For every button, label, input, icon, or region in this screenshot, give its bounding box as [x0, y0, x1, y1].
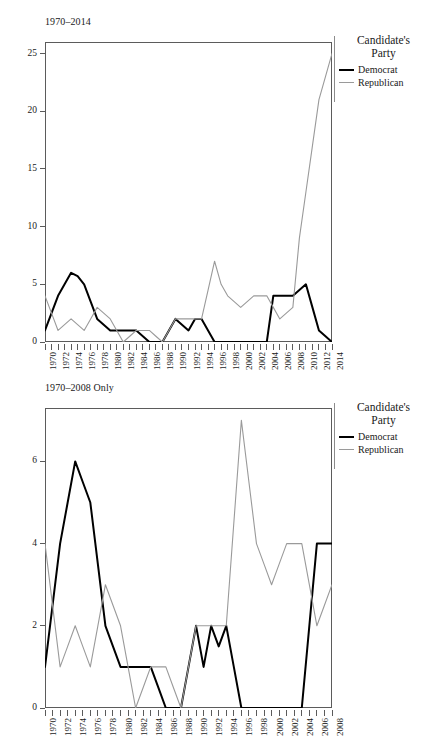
legend-label-democrat: Democrat: [358, 431, 397, 443]
x-tick-mark: [45, 344, 46, 350]
x-tick-label: 1998: [232, 352, 241, 370]
x-tick-label: 2006: [284, 352, 293, 370]
x-tick-label: 2012: [323, 352, 332, 370]
y-tick-mark: [40, 543, 45, 544]
legend-bottom: Candidate's Party Democrat Republican: [336, 401, 429, 456]
x-tick-label: 1980: [114, 352, 123, 370]
x-tick-mark: [165, 710, 166, 716]
x-tick-mark: [325, 344, 326, 350]
x-tick-mark: [77, 344, 78, 350]
x-tick-mark: [318, 344, 319, 350]
x-tick-label: 1984: [155, 718, 164, 736]
x-tick-mark: [120, 710, 121, 716]
y-axis-top: 0510152025: [0, 42, 45, 342]
x-tick-label: 2008: [297, 352, 306, 370]
y-tick-label: 10: [28, 220, 38, 233]
x-tick-mark: [279, 710, 280, 716]
line-chart-top: [45, 42, 332, 342]
y-tick-mark: [40, 53, 45, 54]
x-tick-label: 1996: [219, 352, 228, 370]
legend-title-line1: Candidate's: [357, 401, 410, 413]
line-swatch-icon: [339, 436, 354, 438]
x-tick-mark: [226, 710, 227, 716]
y-tick-label: 25: [28, 47, 38, 60]
x-tick-mark: [45, 710, 46, 716]
y-tick-label: 0: [32, 335, 37, 348]
x-tick-mark: [286, 710, 287, 716]
x-tick-mark: [155, 344, 156, 350]
x-tick-mark: [214, 344, 215, 350]
x-tick-mark: [264, 710, 265, 716]
x-tick-label: 1986: [153, 352, 162, 370]
x-tick-mark: [305, 344, 306, 350]
y-tick-mark: [40, 111, 45, 112]
series-line-republican: [45, 54, 332, 342]
x-tick-mark: [221, 344, 222, 350]
x-tick-label: 1982: [127, 352, 136, 370]
x-tick-mark: [84, 344, 85, 350]
y-tick-label: 20: [28, 104, 38, 117]
x-tick-mark: [64, 344, 65, 350]
x-tick-mark: [97, 344, 98, 350]
x-tick-mark: [332, 710, 333, 716]
x-tick-label: 1974: [79, 718, 88, 736]
x-tick-label: 2002: [291, 718, 300, 736]
x-tick-label: 1978: [101, 352, 110, 370]
line-swatch-icon: [339, 82, 354, 83]
x-tick-mark: [123, 344, 124, 350]
x-tick-mark: [201, 344, 202, 350]
x-tick-label: 1990: [200, 718, 209, 736]
x-tick-mark: [332, 344, 333, 350]
x-tick-label: 1986: [170, 718, 179, 736]
x-tick-label: 1974: [75, 352, 84, 370]
x-tick-mark: [112, 710, 113, 716]
x-tick-label: 1992: [193, 352, 202, 370]
legend-title: Candidate's Party: [336, 34, 429, 61]
x-tick-mark: [162, 344, 163, 350]
x-tick-label: 1988: [185, 718, 194, 736]
x-tick-mark: [90, 344, 91, 350]
x-tick-label: 1970: [49, 718, 58, 736]
series-line-democrat: [45, 273, 332, 342]
y-tick-mark: [40, 284, 45, 285]
x-tick-mark: [299, 344, 300, 350]
y-axis-bottom: 0246: [0, 408, 45, 708]
legend-title-line1: Candidate's: [357, 34, 410, 46]
x-tick-mark: [273, 344, 274, 350]
legend-items: Democrat Republican: [336, 430, 429, 456]
legend-divider: [334, 403, 335, 469]
x-tick-label: 1998: [260, 718, 269, 736]
x-tick-label: 2008: [336, 718, 345, 736]
x-tick-mark: [52, 710, 53, 716]
x-tick-mark: [135, 710, 136, 716]
x-tick-mark: [110, 344, 111, 350]
x-tick-mark: [211, 710, 212, 716]
legend-title-line2: Party: [340, 414, 427, 427]
legend-title: Candidate's Party: [336, 401, 429, 428]
x-tick-mark: [312, 344, 313, 350]
x-tick-mark: [248, 710, 249, 716]
x-tick-label: 2004: [271, 352, 280, 370]
x-tick-mark: [116, 344, 117, 350]
x-tick-mark: [203, 710, 204, 716]
line-swatch-icon: [339, 449, 354, 450]
x-tick-mark: [316, 710, 317, 716]
x-tick-mark: [180, 710, 181, 716]
x-tick-mark: [208, 344, 209, 350]
x-tick-mark: [90, 710, 91, 716]
x-tick-label: 1988: [166, 352, 175, 370]
y-tick-label: 0: [32, 701, 37, 714]
x-tick-mark: [149, 344, 150, 350]
x-tick-mark: [67, 710, 68, 716]
x-tick-mark: [175, 344, 176, 350]
x-tick-mark: [247, 344, 248, 350]
x-axis-bottom: 1970197219741976197819801982198419861988…: [45, 708, 332, 755]
x-tick-mark: [142, 344, 143, 350]
x-tick-label: 1972: [64, 718, 73, 736]
legend-divider: [334, 36, 335, 102]
plot-area-top: 0510152025 19701972197419761978198019821…: [45, 42, 332, 342]
x-tick-mark: [71, 344, 72, 350]
x-tick-mark: [75, 710, 76, 716]
x-tick-mark: [218, 710, 219, 716]
x-tick-mark: [241, 710, 242, 716]
